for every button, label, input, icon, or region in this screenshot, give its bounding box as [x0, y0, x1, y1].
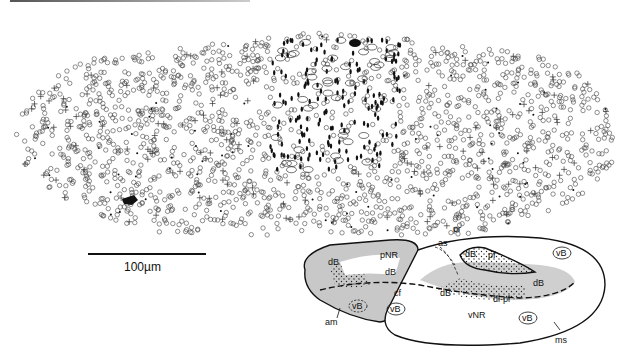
- svg-text:dl-pl: dl-pl: [493, 294, 510, 304]
- svg-text:pf: pf: [488, 250, 496, 260]
- svg-text:dB: dB: [328, 257, 339, 267]
- svg-text:dB: dB: [385, 267, 396, 277]
- arrowhead-marker: [122, 195, 138, 205]
- svg-text:vB: vB: [390, 304, 401, 314]
- svg-text:dB: dB: [533, 278, 544, 288]
- svg-text:am: am: [325, 317, 338, 327]
- scale-bar-label: 100µm: [124, 260, 161, 274]
- blob-marker: [349, 39, 361, 47]
- svg-text:cf: cf: [394, 288, 402, 298]
- svg-text:vB: vB: [556, 248, 567, 258]
- svg-text:vNR: vNR: [468, 310, 486, 320]
- svg-text:pr: pr: [453, 224, 461, 234]
- cell-distribution-map: pr as pf pNR dB dB dB dB dB vB vB vB vB …: [0, 0, 618, 357]
- svg-text:as: as: [438, 238, 448, 248]
- cell-symbols: [14, 31, 614, 237]
- svg-text:dB: dB: [440, 288, 451, 298]
- svg-text:pNR: pNR: [380, 250, 399, 260]
- svg-text:dB: dB: [465, 249, 476, 259]
- scale-bar: [88, 253, 206, 255]
- svg-text:ms: ms: [555, 335, 567, 345]
- svg-text:vB: vB: [352, 301, 363, 311]
- svg-text:vB: vB: [522, 313, 533, 323]
